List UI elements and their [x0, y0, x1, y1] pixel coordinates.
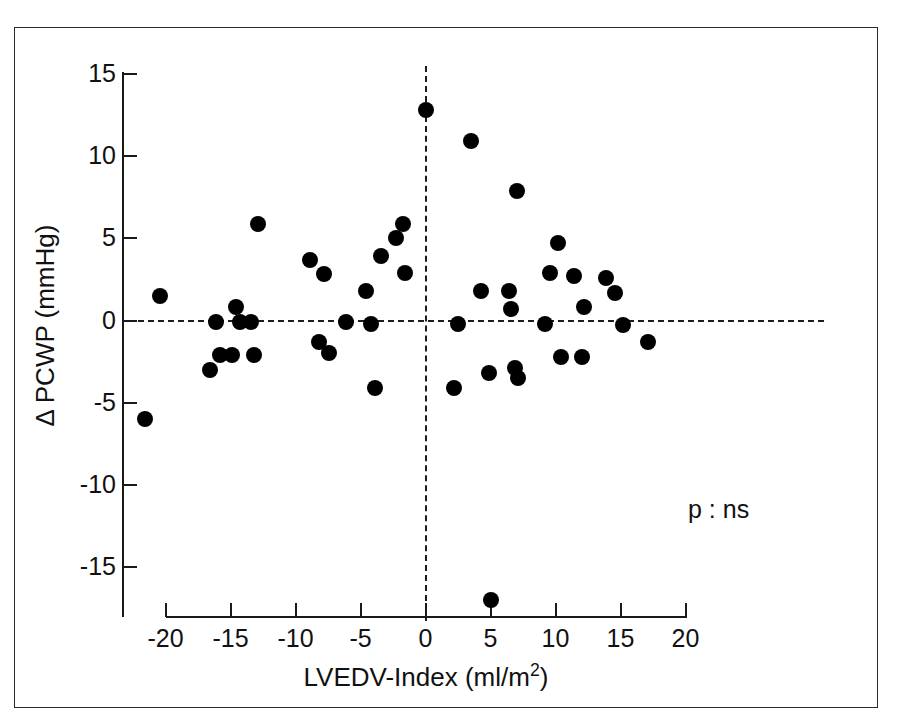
page-border-frame [14, 27, 878, 708]
figure-root: -15-10-5051015-20-15-10-505101520 Δ PCWP… [0, 0, 901, 724]
